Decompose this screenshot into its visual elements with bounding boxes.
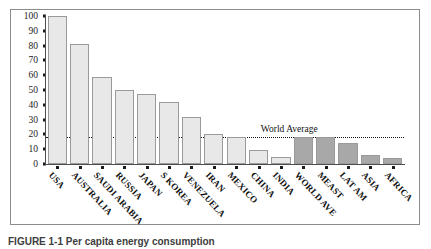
world-average-label: World Average bbox=[261, 124, 318, 134]
x-tick-mark bbox=[146, 166, 149, 169]
x-axis-line bbox=[45, 164, 405, 165]
x-tick-mark bbox=[168, 166, 171, 169]
bar bbox=[115, 90, 134, 164]
x-tick-mark bbox=[123, 166, 126, 169]
y-tick-label: 80 bbox=[12, 41, 38, 51]
bar bbox=[92, 77, 111, 164]
y-tick-label: 20 bbox=[12, 129, 38, 139]
x-tick-mark bbox=[235, 166, 238, 169]
bar bbox=[137, 94, 156, 164]
y-tick-label: 0 bbox=[12, 159, 38, 169]
bar bbox=[338, 143, 357, 164]
y-tick-label: 90 bbox=[12, 26, 38, 36]
x-tick-mark bbox=[101, 166, 104, 169]
y-tick-label: 50 bbox=[12, 85, 38, 95]
x-tick-mark bbox=[213, 166, 216, 169]
plot-area bbox=[46, 16, 404, 164]
bar bbox=[70, 44, 89, 164]
y-tick-label: 30 bbox=[12, 115, 38, 125]
y-tick-label: 60 bbox=[12, 70, 38, 80]
x-tick-mark bbox=[302, 166, 305, 169]
x-tick-mark bbox=[369, 166, 372, 169]
x-tick-mark bbox=[79, 166, 82, 169]
bar bbox=[361, 155, 380, 164]
bar bbox=[294, 137, 313, 164]
bar bbox=[249, 150, 268, 164]
bar bbox=[316, 137, 335, 164]
bar bbox=[48, 16, 67, 164]
x-tick-mark bbox=[392, 166, 395, 169]
figure-container: USA = 100 0102030405060708090100 World A… bbox=[0, 0, 431, 249]
y-tick-label: 40 bbox=[12, 100, 38, 110]
x-tick-mark bbox=[347, 166, 350, 169]
y-tick-label: 70 bbox=[12, 55, 38, 65]
bar bbox=[271, 157, 290, 164]
y-tick-label: 10 bbox=[12, 144, 38, 154]
y-axis-ticks: 0102030405060708090100 bbox=[10, 16, 46, 164]
x-tick-mark bbox=[325, 166, 328, 169]
x-tick-mark bbox=[190, 166, 193, 169]
bar bbox=[204, 134, 223, 164]
bar bbox=[159, 102, 178, 164]
y-tick-label: 100 bbox=[12, 11, 38, 21]
x-tick-mark bbox=[258, 166, 261, 169]
bar bbox=[182, 117, 201, 164]
figure-caption: FIGURE 1-1 Per capita energy consumption bbox=[8, 236, 431, 249]
x-tick-mark bbox=[280, 166, 283, 169]
x-tick-mark bbox=[56, 166, 59, 169]
bar bbox=[227, 137, 246, 164]
bar bbox=[383, 158, 402, 164]
